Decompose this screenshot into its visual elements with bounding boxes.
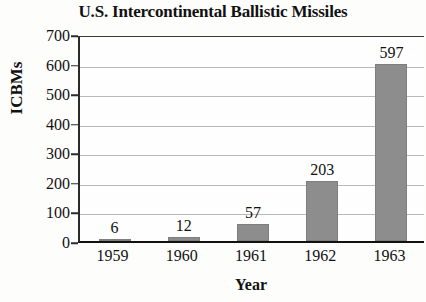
x-axis-tick-labels: 19591960196119621963 bbox=[78, 248, 424, 272]
bar-value-label: 203 bbox=[310, 162, 334, 178]
bar-chart-figure: U.S. Intercontinental Ballistic Missiles… bbox=[0, 0, 426, 302]
y-tick-mark bbox=[71, 65, 78, 67]
y-tick-mark bbox=[71, 242, 78, 244]
bar bbox=[99, 239, 131, 241]
y-tick-label: 400 bbox=[46, 117, 70, 133]
y-tick-label: 700 bbox=[46, 28, 70, 44]
x-tick-label: 1963 bbox=[373, 248, 405, 264]
bar-column bbox=[306, 37, 338, 241]
bar-value-label: 597 bbox=[379, 45, 403, 61]
bar-value-label: 12 bbox=[176, 218, 192, 234]
y-tick-mark bbox=[71, 154, 78, 156]
y-tick-mark bbox=[71, 213, 78, 215]
x-tick-label: 1962 bbox=[304, 248, 336, 264]
bar bbox=[237, 224, 269, 241]
y-tick-label: 0 bbox=[62, 235, 70, 251]
bar-column bbox=[375, 37, 407, 241]
y-tick-mark bbox=[71, 35, 78, 37]
chart-title: U.S. Intercontinental Ballistic Missiles bbox=[0, 2, 426, 22]
x-tick-label: 1959 bbox=[97, 248, 129, 264]
bar-column bbox=[168, 37, 200, 241]
bar-value-label: 6 bbox=[111, 220, 119, 236]
x-tick-label: 1961 bbox=[235, 248, 267, 264]
plot-area: 61257203597 bbox=[78, 36, 424, 243]
y-axis-tick-labels: 7006005004003002001000 bbox=[0, 36, 78, 243]
bar-value-label: 57 bbox=[245, 205, 261, 221]
y-tick-label: 500 bbox=[46, 87, 70, 103]
y-tick-label: 300 bbox=[46, 146, 70, 162]
y-tick-mark bbox=[71, 124, 78, 126]
bar-column bbox=[99, 37, 131, 241]
bar-series: 61257203597 bbox=[80, 37, 424, 241]
bar bbox=[306, 181, 338, 241]
y-tick-label: 600 bbox=[46, 58, 70, 74]
x-axis-title: Year bbox=[78, 276, 424, 294]
y-tick-label: 200 bbox=[46, 176, 70, 192]
y-tick-mark bbox=[71, 94, 78, 96]
y-tick-mark bbox=[71, 183, 78, 185]
bar bbox=[375, 64, 407, 241]
x-tick-label: 1960 bbox=[166, 248, 198, 264]
y-tick-label: 100 bbox=[46, 205, 70, 221]
bar bbox=[168, 237, 200, 241]
